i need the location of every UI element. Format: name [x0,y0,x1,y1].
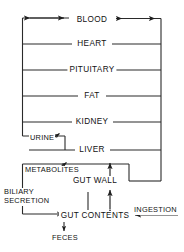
compartment-label-kidney: KIDNEY [74,117,111,126]
flow-label-metabolites: METABOLITES [24,166,80,175]
compartment-label-fat: FAT [82,91,101,100]
compartment-label-gut-contents: GUT CONTENTS [59,211,132,220]
compartment-label-heart: HEART [75,39,108,48]
compartment-label-pituitary: PITUITARY [67,65,116,74]
flow-label-urine: URINE [29,134,55,143]
pbpk-diagram: BLOOD HEART PITUITARY FAT KIDNEY LIVER G… [0,0,184,252]
compartment-label-gut-wall: GUT WALL [71,176,119,185]
flow-label-biliary-secretion: BILIARY SECRETION [3,188,50,206]
flow-label-biliary-secretion-line2: SECRETION [4,197,49,206]
flow-label-feces: FECES [51,234,79,243]
compartment-label-blood: BLOOD [75,15,109,24]
compartment-label-liver: LIVER [77,145,106,154]
flow-label-ingestion: INGESTION [133,206,178,215]
